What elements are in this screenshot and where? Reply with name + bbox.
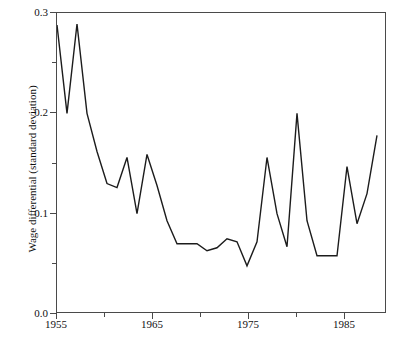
x-tick-label-1975: 1975 bbox=[237, 318, 259, 330]
y-tick-label-0.1: 0.1 bbox=[34, 208, 48, 219]
series-canvas bbox=[57, 13, 387, 314]
chart-figure: Wage differential (standard deviation) 0… bbox=[0, 0, 400, 350]
y-tick-label-0.2: 0.2 bbox=[34, 107, 48, 118]
x-tick-label-1955: 1955 bbox=[45, 318, 67, 330]
y-tick-label-0.0: 0.0 bbox=[34, 308, 48, 319]
y-axis-labels: 0.3 0.2 0.1 0.0 bbox=[0, 0, 56, 350]
y-tick-label-0.3: 0.3 bbox=[34, 7, 48, 18]
plot-area bbox=[56, 12, 386, 313]
x-tick-label-1985: 1985 bbox=[333, 318, 355, 330]
x-axis-labels: 1955 1965 1975 1985 bbox=[0, 318, 400, 338]
line-series-wage-differential bbox=[57, 24, 377, 266]
x-tick-label-1965: 1965 bbox=[141, 318, 163, 330]
